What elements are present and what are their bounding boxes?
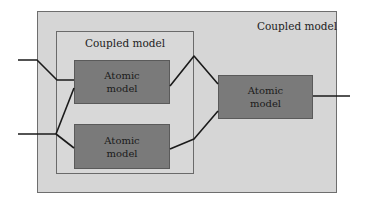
wire-a1-to-a3 <box>170 56 218 86</box>
connection-wires <box>0 0 366 203</box>
wire-input-2-to-a1 <box>56 88 74 134</box>
wire-input-1-to-a1 <box>18 60 74 80</box>
wire-a2-to-a3 <box>170 111 218 149</box>
wire-input-2-to-a2 <box>56 134 74 148</box>
